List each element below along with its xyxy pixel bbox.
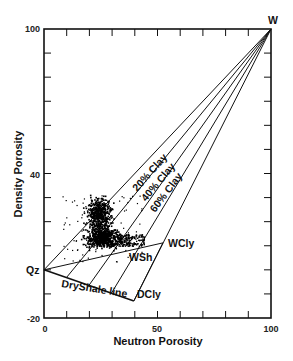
label-qz: Qz xyxy=(26,264,39,276)
x-tick-100: 100 xyxy=(263,324,278,334)
y-tick-minus20: -20 xyxy=(27,314,40,324)
label-dcly: DCly xyxy=(137,288,161,300)
line-qz-w xyxy=(44,29,271,270)
chart: 100 40 -20 0 50 100 Neutron Porosity Den… xyxy=(0,0,293,361)
label-wsh: WSh xyxy=(129,251,152,263)
label-dryshale-line: DryShale line xyxy=(61,277,129,299)
x-axis-title: Neutron Porosity xyxy=(113,335,203,347)
y-axis-title: Density Porosity xyxy=(12,130,24,218)
y-tick-40: 40 xyxy=(30,170,40,180)
label-wcly: WCly xyxy=(168,237,194,249)
x-tick-0: 0 xyxy=(42,324,47,334)
y-tick-100: 100 xyxy=(25,24,40,34)
x-tick-50: 50 xyxy=(152,324,162,334)
label-w: W xyxy=(268,14,278,26)
